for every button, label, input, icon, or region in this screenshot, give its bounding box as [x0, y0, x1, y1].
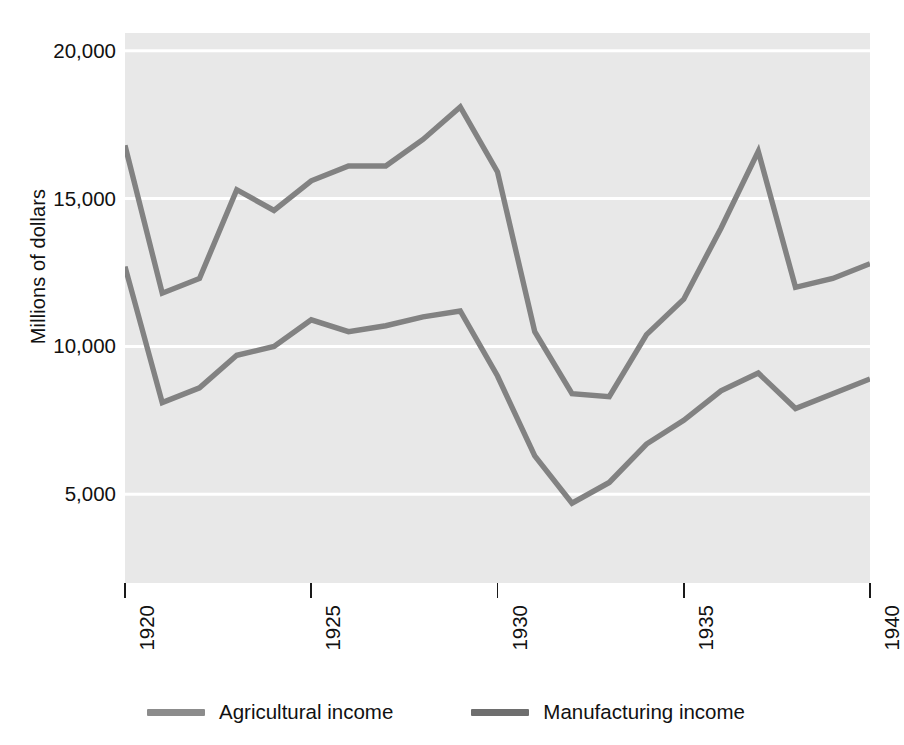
x-tick-mark — [310, 583, 312, 598]
y-tick-label: 10,000 — [18, 334, 116, 358]
x-tick-label: 1930 — [508, 605, 532, 651]
legend-swatch-icon — [471, 709, 529, 716]
y-axis-tick-labels: 20,00015,00010,0005,000 — [18, 0, 116, 745]
legend-item-2[interactable]: Manufacturing income — [471, 700, 745, 724]
x-tick-mark — [683, 583, 685, 598]
x-tick-mark — [869, 583, 871, 598]
x-tick-label: 1935 — [694, 605, 718, 651]
x-axis: 19201925193019351940 — [125, 583, 870, 693]
y-tick-label: 5,000 — [18, 482, 116, 506]
x-tick-label: 1940 — [880, 605, 904, 651]
x-tick-label: 1925 — [321, 605, 345, 651]
x-tick-label: 1920 — [135, 605, 159, 651]
legend-label: Manufacturing income — [543, 700, 745, 724]
chart-legend: Agricultural incomeManufacturing income — [0, 700, 892, 724]
x-tick-mark — [497, 583, 499, 598]
series-line-2 — [125, 267, 870, 504]
data-series-group — [125, 107, 870, 503]
legend-item-1[interactable]: Agricultural income — [147, 700, 393, 724]
x-tick-mark — [124, 583, 126, 598]
legend-swatch-icon — [147, 709, 205, 716]
chart-canvas — [125, 33, 870, 583]
y-tick-label: 15,000 — [18, 187, 116, 211]
gridlines — [125, 51, 870, 495]
legend-label: Agricultural income — [219, 700, 393, 724]
plot-area — [125, 33, 870, 583]
y-tick-label: 20,000 — [18, 39, 116, 63]
